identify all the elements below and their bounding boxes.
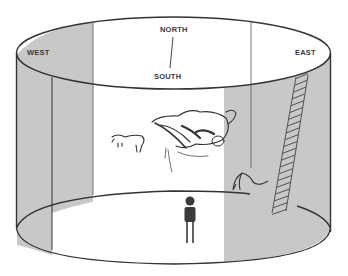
cave-diagram: NORTH SOUTH WEST EAST: [0, 0, 348, 276]
cave-paintings: [112, 110, 236, 172]
person-body: [185, 207, 196, 222]
painting-small-animal: [112, 135, 144, 152]
label-west: WEST: [27, 48, 50, 57]
label-east: EAST: [295, 48, 316, 57]
person-head: [186, 197, 195, 206]
label-south: SOUTH: [154, 72, 181, 81]
label-north: NORTH: [160, 25, 188, 34]
east-mid-shade: [224, 85, 251, 190]
